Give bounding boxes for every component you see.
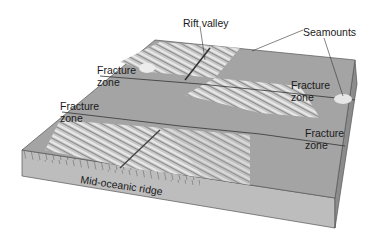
label-fracture-zone-3-line2: zone <box>291 91 314 103</box>
label-fracture-zone-2-line2: zone <box>60 112 83 124</box>
seafloor-block-diagram: Rift valley Seamounts Fracture zone Frac… <box>0 0 384 238</box>
label-fracture-zone-1-line1: Fracture <box>97 64 136 76</box>
label-rift-valley: Rift valley <box>183 17 229 29</box>
seamounts-leader-1 <box>252 30 303 51</box>
label-fracture-zone-3-line1: Fracture <box>291 79 330 91</box>
label-fracture-zone-4-line2: zone <box>305 139 328 151</box>
label-fracture-zone-4-line1: Fracture <box>305 127 344 139</box>
label-seamounts: Seamounts <box>303 26 356 38</box>
seamount-left <box>139 63 155 73</box>
label-fracture-zone-1-line2: zone <box>97 76 120 88</box>
label-fracture-zone-2-line1: Fracture <box>60 100 99 112</box>
